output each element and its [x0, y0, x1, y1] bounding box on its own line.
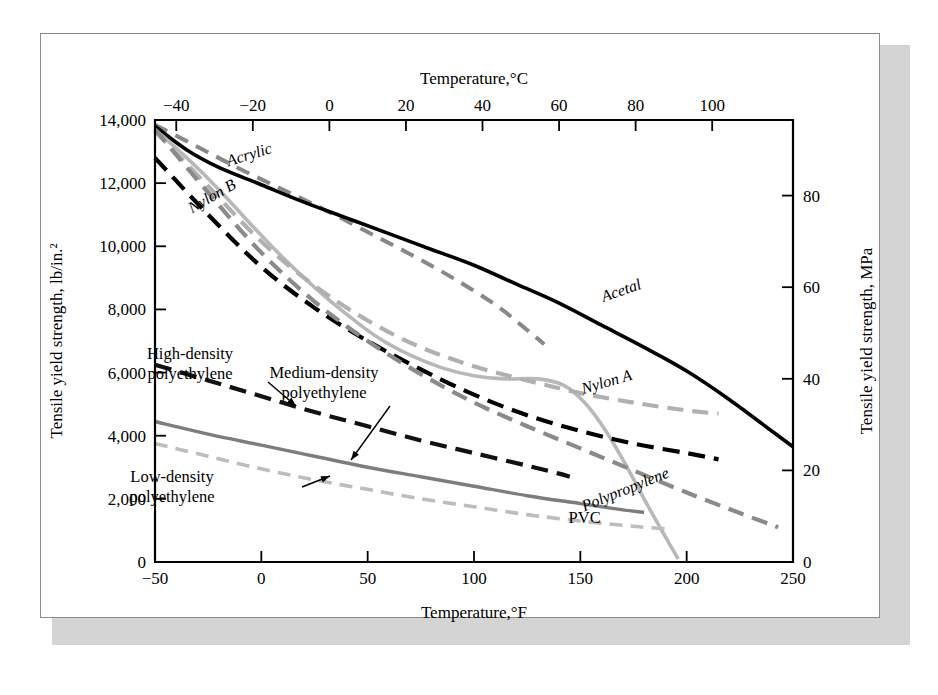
- svg-text:10,000: 10,000: [99, 237, 146, 256]
- curve-label-nylon-a: Nylon A: [578, 366, 634, 398]
- svg-text:150: 150: [568, 569, 594, 588]
- svg-text:40: 40: [803, 370, 820, 389]
- svg-text:Tensile yield strength, MPa: Tensile yield strength, MPa: [857, 247, 876, 434]
- svg-text:polyethylene: polyethylene: [129, 487, 214, 506]
- svg-text:20: 20: [397, 96, 414, 115]
- annotation-leader: [351, 406, 390, 460]
- svg-text:250: 250: [780, 569, 806, 588]
- svg-text:40: 40: [474, 96, 491, 115]
- svg-text:20: 20: [803, 461, 820, 480]
- svg-text:Tensile yield strength, lb/in.: Tensile yield strength, lb/in.²: [47, 243, 66, 438]
- svg-text:0: 0: [257, 569, 266, 588]
- svg-text:Medium-density: Medium-density: [269, 363, 379, 382]
- curve-acetal: [155, 126, 793, 446]
- svg-text:Temperature,°F: Temperature,°F: [421, 603, 527, 622]
- svg-text:Low-density: Low-density: [130, 467, 214, 486]
- curve-nylon-a: [155, 131, 719, 414]
- curve-label-acrylic: Acrylic: [224, 139, 274, 170]
- svg-text:100: 100: [699, 96, 725, 115]
- svg-text:50: 50: [359, 569, 376, 588]
- svg-text:6,000: 6,000: [108, 364, 146, 383]
- figure-root: −50050100150200250Temperature,°F−40−2002…: [0, 0, 938, 695]
- svg-text:14,000: 14,000: [99, 111, 146, 130]
- tensile-yield-strength-chart: −50050100150200250Temperature,°F−40−2002…: [0, 0, 938, 695]
- svg-text:100: 100: [461, 569, 487, 588]
- curves-layer: [155, 125, 793, 559]
- svg-text:polyethylene: polyethylene: [147, 364, 232, 383]
- svg-text:12,000: 12,000: [99, 174, 146, 193]
- svg-text:200: 200: [674, 569, 700, 588]
- svg-text:0: 0: [325, 96, 334, 115]
- svg-text:60: 60: [803, 278, 820, 297]
- svg-text:4,000: 4,000: [108, 427, 146, 446]
- svg-text:High-density: High-density: [147, 344, 234, 363]
- svg-text:−40: −40: [163, 96, 190, 115]
- curve-label-polypropylene: Polypropylene: [578, 464, 672, 516]
- annotation-low-density-polyethylene: Low-densitypolyethylene: [129, 467, 330, 506]
- svg-text:0: 0: [138, 553, 147, 572]
- svg-text:Temperature,°C: Temperature,°C: [420, 69, 528, 88]
- curve-medium-density-polyethylene: [155, 422, 644, 513]
- curve-nylon-b: [155, 158, 719, 460]
- plot-container: −50050100150200250Temperature,°F−40−2002…: [0, 0, 938, 695]
- svg-text:polyethylene: polyethylene: [281, 383, 366, 402]
- svg-text:60: 60: [551, 96, 568, 115]
- annotation-arrowhead: [351, 451, 359, 460]
- curve-label-acetal: Acetal: [598, 275, 644, 305]
- svg-text:0: 0: [803, 553, 812, 572]
- svg-text:8,000: 8,000: [108, 300, 146, 319]
- svg-text:−20: −20: [240, 96, 267, 115]
- svg-text:80: 80: [803, 187, 820, 206]
- annotation-medium-density-polyethylene: Medium-densitypolyethylene: [269, 363, 390, 460]
- svg-text:80: 80: [627, 96, 644, 115]
